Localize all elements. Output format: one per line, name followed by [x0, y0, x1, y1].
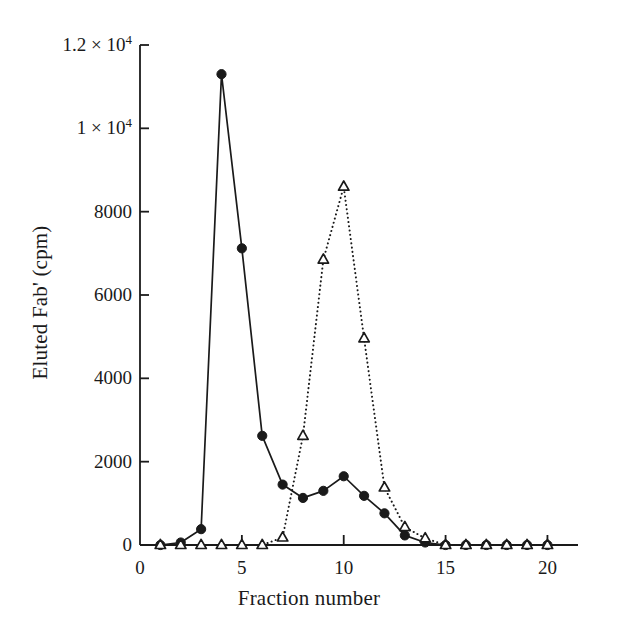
data-point-triangle: [216, 539, 226, 548]
data-point-triangle: [339, 181, 349, 190]
x-tick-label: 5: [237, 557, 247, 579]
tick-marks: [140, 45, 547, 545]
data-point-circle: [339, 472, 348, 481]
data-point-triangle: [237, 539, 247, 548]
data-point-triangle: [196, 539, 206, 548]
data-point-circle: [298, 493, 307, 502]
data-point-triangle: [379, 482, 389, 491]
data-series-filled-circle-series: [156, 70, 552, 550]
data-point-circle: [319, 486, 328, 495]
data-point-triangle: [420, 533, 430, 542]
y-tick-label: 6000: [94, 284, 132, 306]
data-point-triangle: [359, 333, 369, 342]
series-line: [160, 187, 547, 545]
data-point-triangle: [318, 254, 328, 263]
plot-area: [0, 0, 618, 626]
y-tick-label: 2000: [94, 451, 132, 473]
x-axis-title: Fraction number: [0, 586, 618, 611]
data-point-circle: [278, 480, 287, 489]
y-tick-label: 4000: [94, 367, 132, 389]
y-tick-label: 8000: [94, 201, 132, 223]
data-point-circle: [380, 509, 389, 518]
data-point-circle: [217, 70, 226, 79]
x-tick-label: 15: [436, 557, 455, 579]
x-tick-label: 20: [538, 557, 557, 579]
data-point-triangle: [400, 521, 410, 530]
data-point-circle: [258, 431, 267, 440]
chart-figure: Eluted Fab' (cpm) Fraction number 020004…: [0, 0, 618, 626]
data-point-triangle: [298, 430, 308, 439]
x-tick-label: 10: [334, 557, 353, 579]
series-line: [160, 74, 547, 545]
data-point-circle: [197, 525, 206, 534]
data-point-circle: [237, 244, 246, 253]
data-point-triangle: [257, 539, 267, 548]
data-point-circle: [400, 531, 409, 540]
y-tick-label: 1 × 104: [77, 117, 132, 139]
x-tick-label: 0: [135, 557, 145, 579]
y-axis-title: Eluted Fab' (cpm): [28, 153, 53, 453]
y-tick-label: 0: [123, 534, 133, 556]
data-point-triangle: [277, 532, 287, 541]
data-point-circle: [359, 491, 368, 500]
y-tick-label: 1.2 × 104: [63, 34, 132, 56]
